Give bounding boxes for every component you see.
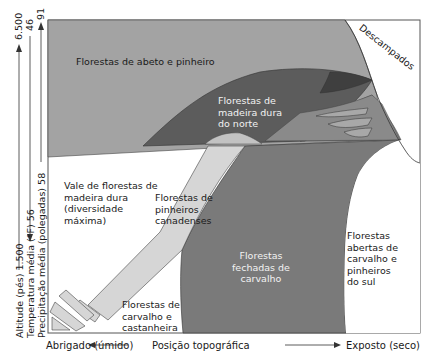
vegetation-diagram: Florestas de abeto e pinheiro Florestas … [0,0,424,360]
label-fir-pine: Florestas de abeto e pinheiro [76,56,215,68]
x-axis-right-label: Exposto (seco) [346,340,420,351]
label-northern-hardwood: Florestas de madeira dura do norte [218,95,282,130]
label-open-oak-pine: Florestas abertas de carvalho e pinheiro… [347,230,398,288]
label-hemlock: Florestas de pinheiros canadenses [155,192,213,227]
x-axis-left-label: Abrigado (úmido) [46,340,133,351]
precipitation-label: Precipitação média (polegadas) 58 [36,173,47,338]
temperature-high-value: 46 [24,19,35,31]
label-cove-hardwood: Vale de florestas de madeira dura (diver… [64,180,158,226]
altitude-high-value: 6.500 [13,13,24,40]
label-closed-oak: Florestas fechadas de carvalho [232,250,290,285]
altitude-arrow-icon [16,44,22,52]
x-axis-title: Posição topográfica [152,340,250,351]
label-oak-chestnut: Florestas de carvalho e castanheira [122,299,180,334]
temperature-label: Temperatura média (°F) 56 [25,209,36,338]
precipitation-arrow-icon [38,22,44,30]
precipitation-high-value: 91 [35,8,46,20]
x-arrow-right-icon [334,342,341,348]
altitude-label: Altitude (pés) 1.500 [14,243,25,338]
